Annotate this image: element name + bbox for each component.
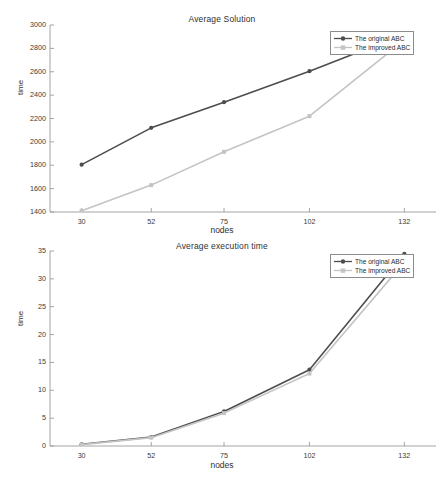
x-axis-tick-label: 52 <box>131 451 171 460</box>
y-axis-tick-label: 35 <box>10 246 46 255</box>
x-axis-tick-label: 132 <box>384 217 424 226</box>
series-line <box>82 262 405 444</box>
x-axis-tick-label: 75 <box>204 217 244 226</box>
y-axis-tick-label: 3000 <box>10 20 46 29</box>
y-axis-tick-label: 0 <box>10 441 46 450</box>
x-axis-tick-label: 52 <box>131 217 171 226</box>
x-axis-tick-label: 30 <box>62 451 102 460</box>
y-axis-tick-label: 1600 <box>10 184 46 193</box>
y-axis-tick-label: 15 <box>10 357 46 366</box>
data-point-marker <box>149 126 153 130</box>
legend-label-improved: The improved ABC <box>355 267 410 274</box>
legend-item-improved[interactable]: The improved ABC <box>333 43 410 52</box>
y-axis-tick-label: 25 <box>10 302 46 311</box>
series-line <box>82 40 405 211</box>
legend-label-improved: The improved ABC <box>355 44 410 51</box>
data-point-marker <box>222 100 226 104</box>
legend-label-original: The original ABC <box>355 35 404 42</box>
x-axis-tick-label: 75 <box>204 451 244 460</box>
data-point-marker <box>307 114 311 118</box>
legend-item-original[interactable]: The original ABC <box>333 34 410 43</box>
x-axis-tick-label: 102 <box>289 217 329 226</box>
legend-swatch-original-icon <box>333 257 353 266</box>
y-axis-tick-label: 10 <box>10 385 46 394</box>
data-point-marker <box>222 411 226 415</box>
legend-item-original[interactable]: The original ABC <box>333 257 410 266</box>
data-point-marker <box>222 150 226 154</box>
y-axis-tick-label: 1400 <box>10 207 46 216</box>
data-point-marker <box>307 69 311 73</box>
y-axis-tick-label: 1800 <box>10 160 46 169</box>
data-point-marker <box>80 163 84 167</box>
y-axis-tick-label: 2000 <box>10 137 46 146</box>
y-axis-tick-label: 2600 <box>10 67 46 76</box>
figure-container: Average Solution time nodes The original… <box>0 0 444 477</box>
x-axis-tick-label: 132 <box>384 451 424 460</box>
chart-legend[interactable]: The original ABC The improved ABC <box>330 254 414 278</box>
data-point-marker <box>149 183 153 187</box>
x-axis-tick-label: 30 <box>62 217 102 226</box>
data-point-marker <box>149 436 153 440</box>
y-axis-tick-label: 2800 <box>10 43 46 52</box>
y-axis-tick-label: 2200 <box>10 114 46 123</box>
legend-swatch-original-icon <box>333 34 353 43</box>
y-axis-tick-label: 5 <box>10 413 46 422</box>
y-axis-tick-label: 2400 <box>10 90 46 99</box>
y-axis-tick-label: 30 <box>10 274 46 283</box>
legend-swatch-improved-icon <box>333 43 353 52</box>
legend-item-improved[interactable]: The improved ABC <box>333 266 410 275</box>
legend-label-original: The original ABC <box>355 258 404 265</box>
chart-average-solution: Average Solution time nodes The original… <box>0 0 444 238</box>
chart-legend[interactable]: The original ABC The improved ABC <box>330 31 414 55</box>
y-axis-tick-label: 20 <box>10 330 46 339</box>
x-axis-tick-label: 102 <box>289 451 329 460</box>
data-point-marker <box>307 372 311 376</box>
series-line <box>82 254 405 445</box>
chart-average-execution-time: Average execution time time nodes The or… <box>0 238 444 477</box>
legend-swatch-improved-icon <box>333 266 353 275</box>
